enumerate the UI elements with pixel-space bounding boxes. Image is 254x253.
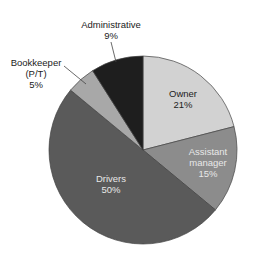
label-bookkeeper-sub: (P/T) [8, 68, 64, 79]
label-administrative: Administrative 9% [80, 19, 142, 41]
label-drivers: Drivers 50% [92, 173, 130, 195]
label-bookkeeper-value: 5% [8, 79, 64, 90]
label-administrative-value: 9% [80, 30, 142, 41]
label-owner-name: Owner [158, 88, 208, 99]
label-bookkeeper-name: Bookkeeper [8, 57, 64, 68]
label-assistant-line2: manager [182, 157, 234, 168]
administrative-leader-line [111, 42, 116, 62]
label-administrative-name: Administrative [80, 19, 142, 30]
label-owner: Owner 21% [158, 88, 208, 110]
bookkeeper-leader-line [64, 66, 86, 84]
label-assistant-line1: Assistant [182, 146, 234, 157]
label-assistant-value: 15% [182, 168, 234, 179]
label-bookkeeper: Bookkeeper (P/T) 5% [8, 57, 64, 90]
label-owner-value: 21% [158, 99, 208, 110]
label-drivers-value: 50% [92, 184, 130, 195]
label-drivers-name: Drivers [92, 173, 130, 184]
label-assistant-manager: Assistant manager 15% [182, 146, 234, 179]
